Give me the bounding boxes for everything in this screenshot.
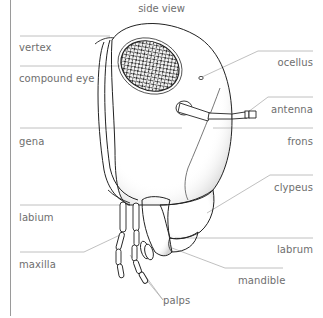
ocellus — [199, 76, 203, 79]
label-vertex: vertex — [19, 42, 52, 54]
label-labium: labium — [19, 212, 54, 224]
label-gena: gena — [19, 136, 44, 148]
label-antenna: antenna — [271, 104, 313, 116]
label-ocellus: ocellus — [277, 57, 313, 69]
label-compound-eye: compound eye — [19, 73, 94, 85]
label-maxilla: maxilla — [19, 259, 56, 271]
label-frons: frons — [287, 136, 313, 148]
label-clypeus: clypeus — [274, 182, 313, 194]
label-palps: palps — [163, 295, 190, 307]
label-mandible: mandible — [238, 275, 285, 287]
label-labrum: labrum — [277, 244, 313, 256]
